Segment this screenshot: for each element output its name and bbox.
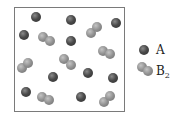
atom-b — [92, 22, 102, 32]
atom-a — [66, 36, 76, 46]
atom-a — [19, 30, 29, 40]
legend-molecule-b2-icon — [143, 66, 153, 76]
atom-a — [31, 12, 41, 22]
atom-b — [105, 49, 115, 59]
atom-a — [111, 18, 121, 28]
atom-a — [21, 87, 31, 97]
atom-a — [83, 68, 93, 78]
legend-label-a: A — [156, 44, 165, 56]
atom-b — [66, 60, 76, 70]
legend-atom-a-icon — [139, 45, 149, 55]
atom-b — [105, 91, 115, 101]
atom-a — [66, 15, 76, 25]
atom-b — [45, 36, 55, 46]
legend-label-b2: B2 — [156, 65, 170, 80]
atom-a — [48, 72, 58, 82]
atom-b — [23, 58, 33, 68]
atom-b — [44, 95, 54, 105]
atom-a — [108, 73, 118, 83]
atom-a — [76, 92, 86, 102]
